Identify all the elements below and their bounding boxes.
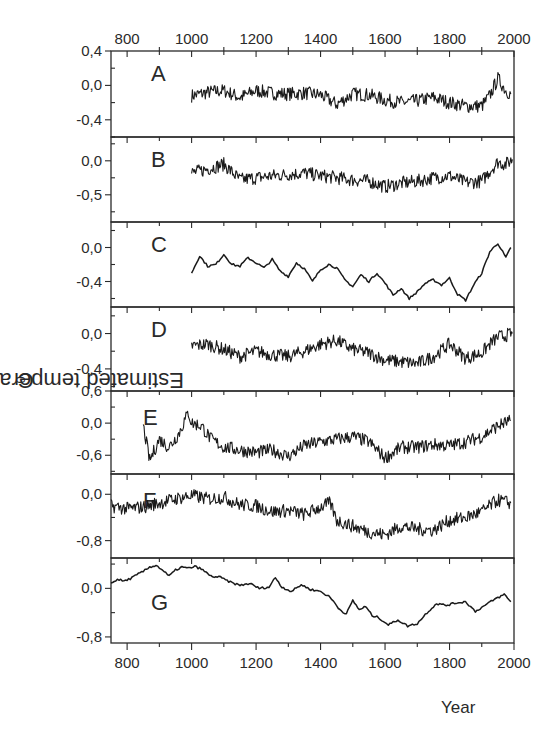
x-tick-label-bottom: 1400: [304, 654, 337, 671]
x-tick-label-top: 800: [115, 30, 140, 47]
y-tick-label: 0,0: [81, 76, 102, 93]
panel-label-d: D: [151, 317, 167, 342]
y-tick-label: -0,6: [76, 446, 102, 463]
series-line-a: [192, 73, 511, 113]
x-axis-bottom: 800100012001400160018002000: [115, 643, 531, 671]
panel-label-b: B: [151, 147, 166, 172]
y-tick-label: 0,0: [81, 414, 102, 431]
y-tick-label: 0,0: [81, 485, 102, 502]
x-tick-label-bottom: 1800: [433, 654, 466, 671]
x-tick-label-top: 1000: [175, 30, 208, 47]
panel-f: 0,0-0,8F: [76, 474, 514, 558]
y-tick-label: 0,0: [81, 239, 102, 256]
x-axis-top: 800100012001400160018002000: [115, 30, 531, 51]
x-tick-label-top: 1800: [433, 30, 466, 47]
y-tick-label: -0,8: [76, 628, 102, 645]
y-tick-label: -0,4: [76, 273, 102, 290]
y-tick-label: 0,0: [81, 579, 102, 596]
panel-label-a: A: [151, 61, 166, 86]
panel-label-e: E: [143, 405, 158, 430]
y-axis-label: Estimated temperature anomaly, 0C: [6, 130, 46, 630]
x-tick-label-bottom: 2000: [497, 654, 530, 671]
series-line-d: [192, 328, 513, 367]
panel-label-c: C: [151, 232, 167, 257]
x-tick-label-bottom: 800: [115, 654, 140, 671]
series-line-e: [143, 411, 511, 463]
panel-g: 0,0-0,8G: [76, 558, 514, 645]
panel-b: 0,0-0,5B: [76, 137, 514, 222]
x-tick-label-top: 2000: [497, 30, 530, 47]
x-axis-label: Year: [441, 698, 475, 718]
panel-label-g: G: [151, 590, 168, 615]
panel-c: 0,0-0,4C: [76, 222, 514, 307]
y-tick-label: -0,8: [76, 532, 102, 549]
series-line-g: [111, 566, 511, 627]
y-tick-label: 0,4: [81, 42, 102, 59]
chart-panels: 0,40,0-0,4A0,0-0,5B0,0-0,4C0,0-0,4D0,60,…: [76, 42, 514, 645]
x-tick-label-bottom: 1000: [175, 654, 208, 671]
x-tick-label-top: 1200: [239, 30, 272, 47]
x-tick-label-top: 1600: [368, 30, 401, 47]
y-tick-label: -0,5: [76, 186, 102, 203]
series-line-c: [192, 244, 511, 301]
x-tick-label-bottom: 1600: [368, 654, 401, 671]
x-tick-label-bottom: 1200: [239, 654, 272, 671]
y-tick-label: -0,4: [76, 111, 102, 128]
y-tick-label: 0,0: [81, 152, 102, 169]
x-tick-label-top: 1400: [304, 30, 337, 47]
series-line-f: [111, 490, 511, 540]
series-line-b: [192, 157, 513, 192]
y-axis-label-unit: C: [18, 367, 34, 393]
panel-e: 0,60,0-0,6E: [76, 382, 514, 474]
y-tick-label: 0,0: [81, 325, 102, 342]
panel-a: 0,40,0-0,4A: [76, 42, 514, 137]
